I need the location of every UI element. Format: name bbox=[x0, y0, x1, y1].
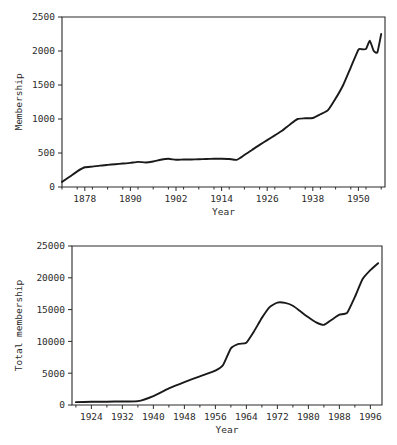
x-tick-label: 1878 bbox=[73, 193, 96, 204]
y-tick-label: 20000 bbox=[36, 272, 65, 283]
y-axis-title: Total membership bbox=[13, 279, 24, 371]
membership-data-line bbox=[62, 34, 381, 182]
figure-container: 05001000150020002500 1878189019021914192… bbox=[0, 0, 397, 445]
membership-chart-panel: 05001000150020002500 1878189019021914192… bbox=[0, 0, 397, 222]
x-axis-tick-labels: 1878189019021914192619381950 bbox=[73, 193, 370, 204]
y-tick-label: 0 bbox=[49, 181, 55, 192]
x-tick-label: 1950 bbox=[347, 193, 370, 204]
x-tick-label: 1902 bbox=[165, 193, 188, 204]
x-tick-label: 1948 bbox=[173, 411, 196, 422]
y-tick-label: 25000 bbox=[36, 240, 65, 251]
y-tick-label: 500 bbox=[38, 147, 55, 158]
x-tick-label: 1914 bbox=[210, 193, 233, 204]
x-tick-label: 1940 bbox=[142, 411, 165, 422]
plot-frame bbox=[72, 246, 382, 405]
x-tick-label: 1924 bbox=[80, 411, 103, 422]
plot-frame bbox=[62, 17, 385, 187]
x-tick-label: 1890 bbox=[119, 193, 142, 204]
x-tick-label: 1996 bbox=[359, 411, 382, 422]
x-tick-label: 1926 bbox=[256, 193, 279, 204]
x-axis-tick-labels: 1924193219401948195619641972198019881996 bbox=[80, 411, 382, 422]
x-tick-label: 1932 bbox=[111, 411, 134, 422]
y-axis-tick-labels: 0500010000150002000025000 bbox=[36, 240, 65, 410]
y-tick-label: 2000 bbox=[32, 45, 55, 56]
total-membership-chart-svg: 0500010000150002000025000 19241932194019… bbox=[0, 225, 397, 445]
x-tick-label: 1964 bbox=[235, 411, 258, 422]
x-tick-label: 1988 bbox=[328, 411, 351, 422]
x-tick-label: 1980 bbox=[297, 411, 320, 422]
x-tick-label: 1956 bbox=[204, 411, 227, 422]
axis-ticks bbox=[68, 246, 370, 409]
y-tick-label: 1500 bbox=[32, 79, 55, 90]
y-tick-label: 5000 bbox=[42, 368, 65, 379]
y-tick-label: 1000 bbox=[32, 113, 55, 124]
y-tick-label: 0 bbox=[59, 399, 65, 410]
x-axis-title: Year bbox=[216, 424, 239, 435]
x-tick-label: 1972 bbox=[266, 411, 289, 422]
total-membership-chart-panel: 0500010000150002000025000 19241932194019… bbox=[0, 225, 397, 445]
y-tick-label: 10000 bbox=[36, 336, 65, 347]
y-tick-label: 2500 bbox=[32, 11, 55, 22]
y-axis-tick-labels: 05001000150020002500 bbox=[32, 11, 55, 192]
x-tick-label: 1938 bbox=[301, 193, 324, 204]
x-axis-title: Year bbox=[212, 206, 235, 217]
total-membership-data-line bbox=[76, 263, 378, 402]
y-tick-label: 15000 bbox=[36, 304, 65, 315]
y-axis-title: Membership bbox=[13, 73, 24, 130]
membership-chart-svg: 05001000150020002500 1878189019021914192… bbox=[0, 0, 397, 222]
